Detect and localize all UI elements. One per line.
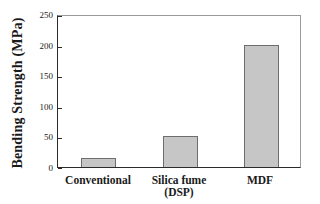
bar-chart: Bending Strength (MPa) 050100150200250 C…	[0, 0, 320, 204]
y-tick-label: 100	[23, 102, 53, 112]
y-tick-mark	[58, 108, 62, 109]
y-tick-label: 250	[23, 10, 53, 20]
plot-area	[57, 15, 301, 168]
y-tick-label: 150	[23, 71, 53, 81]
y-tick-mark	[58, 47, 62, 48]
y-tick-mark	[58, 77, 62, 78]
y-tick-label: 200	[23, 41, 53, 51]
bar-conventional	[81, 158, 116, 167]
y-tick-mark	[58, 16, 62, 17]
bar-silica	[163, 136, 198, 167]
y-tick-mark	[58, 168, 62, 169]
y-axis-title: Bending Strength (MPa)	[10, 13, 28, 173]
category-label-mdf: MDF	[210, 174, 310, 186]
y-tick-label: 0	[23, 163, 53, 173]
y-tick-mark	[58, 138, 62, 139]
y-tick-label: 50	[23, 132, 53, 142]
bar-mdf	[244, 45, 279, 167]
